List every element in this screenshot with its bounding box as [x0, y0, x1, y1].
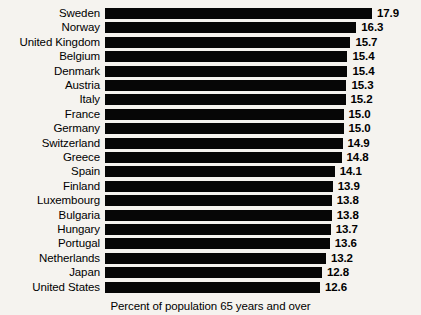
category-label: Norway: [0, 21, 100, 33]
bar: [105, 138, 343, 149]
category-label: Spain: [0, 165, 100, 177]
value-label: 12.8: [327, 266, 349, 278]
x-axis-caption: Percent of population 65 years and over: [0, 300, 421, 312]
bar: [105, 238, 330, 249]
bar: [105, 94, 346, 105]
bar-row: Spain14.1: [0, 166, 421, 177]
value-label: 13.6: [335, 237, 357, 249]
bar-row: United Kingdom15.7: [0, 37, 421, 48]
bar: [105, 51, 347, 62]
bar: [105, 66, 347, 77]
category-label: Denmark: [0, 65, 100, 77]
bar-row: Italy15.2: [0, 94, 421, 105]
category-label: Germany: [0, 122, 100, 134]
bar: [105, 8, 372, 19]
value-label: 15.4: [352, 65, 374, 77]
bar-row: Belgium15.4: [0, 51, 421, 62]
bar-row: Germany15.0: [0, 123, 421, 134]
category-label: Austria: [0, 79, 100, 91]
bar: [105, 166, 335, 177]
value-label: 13.8: [337, 209, 359, 221]
bar: [105, 253, 326, 264]
value-label: 15.3: [351, 79, 373, 91]
category-label: United States: [0, 281, 100, 293]
bar: [105, 195, 332, 206]
bar-row: Denmark15.4: [0, 66, 421, 77]
bar: [105, 267, 322, 278]
bar: [105, 152, 342, 163]
value-label: 14.8: [347, 151, 369, 163]
bar-row: Austria15.3: [0, 80, 421, 91]
chart-plot-area: Sweden17.9Norway16.3United Kingdom15.7Be…: [0, 0, 421, 297]
bar: [105, 224, 331, 235]
bar: [105, 22, 356, 33]
category-label: Netherlands: [0, 252, 100, 264]
bar-row: Switzerland14.9: [0, 138, 421, 149]
bar-row: Netherlands13.2: [0, 253, 421, 264]
bar: [105, 123, 344, 134]
value-label: 16.3: [361, 21, 383, 33]
bar-row: Portugal13.6: [0, 238, 421, 249]
bar-row: Bulgaria13.8: [0, 210, 421, 221]
category-label: United Kingdom: [0, 36, 100, 48]
bar: [105, 37, 350, 48]
value-label: 13.7: [336, 223, 358, 235]
category-label: Switzerland: [0, 137, 100, 149]
bar-row: Norway16.3: [0, 22, 421, 33]
category-label: Japan: [0, 266, 100, 278]
category-label: Hungary: [0, 223, 100, 235]
bar-row: Japan12.8: [0, 267, 421, 278]
value-label: 12.6: [325, 281, 347, 293]
bar-row: Sweden17.9: [0, 8, 421, 19]
category-label: Bulgaria: [0, 209, 100, 221]
category-label: Greece: [0, 151, 100, 163]
value-label: 15.2: [351, 93, 373, 105]
bar: [105, 282, 320, 293]
bar-row: Luxembourg13.8: [0, 195, 421, 206]
value-label: 14.9: [348, 137, 370, 149]
horizontal-bar-chart: Sweden17.9Norway16.3United Kingdom15.7Be…: [0, 0, 421, 315]
bar-row: Finland13.9: [0, 181, 421, 192]
bar-row: United States12.6: [0, 282, 421, 293]
bar-row: Hungary13.7: [0, 224, 421, 235]
bar: [105, 210, 332, 221]
category-label: Luxembourg: [0, 194, 100, 206]
category-label: Italy: [0, 93, 100, 105]
value-label: 15.0: [349, 108, 371, 120]
value-label: 15.4: [352, 50, 374, 62]
bar-row: Greece14.8: [0, 152, 421, 163]
bar: [105, 80, 346, 91]
value-label: 13.8: [337, 194, 359, 206]
value-label: 15.0: [349, 122, 371, 134]
category-label: Sweden: [0, 7, 100, 19]
category-label: France: [0, 108, 100, 120]
value-label: 13.9: [338, 180, 360, 192]
value-label: 14.1: [340, 165, 362, 177]
bar-row: France15.0: [0, 109, 421, 120]
bar: [105, 109, 344, 120]
value-label: 13.2: [331, 252, 353, 264]
bar: [105, 181, 333, 192]
category-label: Portugal: [0, 237, 100, 249]
value-label: 17.9: [377, 7, 399, 19]
category-label: Finland: [0, 180, 100, 192]
category-label: Belgium: [0, 50, 100, 62]
value-label: 15.7: [355, 36, 377, 48]
